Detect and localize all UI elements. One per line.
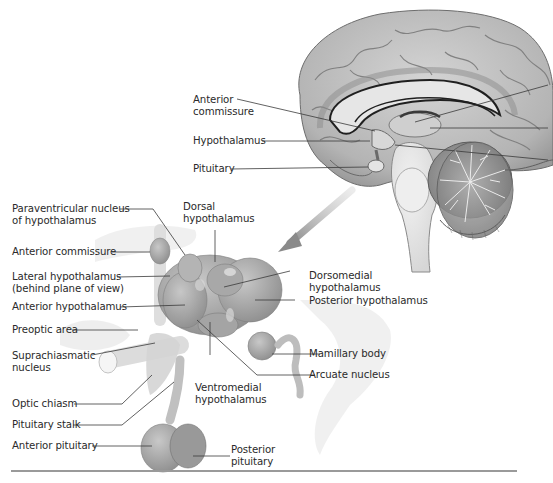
label-ventromedial-hypothalamus: Ventromedial hypothalamus [195,382,266,406]
cerebellum [428,142,513,240]
label-line: Lateral hypothalamus [12,271,124,283]
label-line: Dorsomedial [309,270,380,282]
label-lateral-hypothalamus: Lateral hypothalamus (behind plane of vi… [12,271,124,295]
label-pituitary-stalk: Pituitary stalk [12,419,81,431]
label-suprachiasmatic-nucleus: Suprachiasmatic nucleus [12,350,95,374]
hypothalamus-figure: Anterior commissure Hypothalamus Pituita… [0,0,553,483]
magnification-arrow [278,190,352,252]
label-optic-chiasm: Optic chiasm [12,398,77,410]
label-dorsomedial-hypothalamus: Dorsomedial hypothalamus [309,270,380,294]
label-line: Suprachiasmatic [12,350,95,362]
label-line: Dorsal [183,201,254,213]
label-line: commissure [193,106,254,118]
label-line: nucleus [12,362,95,374]
label-anterior-hypothalamus: Anterior hypothalamus [12,301,127,313]
label-line: Anterior [193,94,254,106]
label-dorsal-hypothalamus: Dorsal hypothalamus [183,201,254,225]
label-posterior-pituitary: Posterior pituitary [231,444,275,468]
label-line: Posterior [231,444,275,456]
label-line: pituitary [231,456,275,468]
mamillary-body-shape [248,332,276,360]
label-preoptic-area: Preoptic area [12,324,78,336]
label-mamillary-body: Mamillary body [309,348,386,360]
label-arcuate-nucleus: Arcuate nucleus [309,369,390,381]
label-anterior-commissure-brain: Anterior commissure [193,94,254,118]
label-line: hypothalamus [183,213,254,225]
label-line: Paraventricular nucleus [12,203,130,215]
label-hypothalamus-brain: Hypothalamus [193,135,266,147]
label-line: Ventromedial [195,382,266,394]
label-line: (behind plane of view) [12,283,124,295]
anterior-commissure-shape [150,238,170,264]
posterior-pituitary-shape [170,424,206,468]
label-pituitary-brain: Pituitary [193,163,235,175]
label-paraventricular-nucleus: Paraventricular nucleus of hypothalamus [12,203,130,227]
label-line: of hypothalamus [12,215,130,227]
bottom-divider [11,470,517,472]
label-line: hypothalamus [195,394,266,406]
label-line: hypothalamus [309,282,380,294]
label-anterior-pituitary: Anterior pituitary [12,440,98,452]
label-anterior-commissure: Anterior commissure [12,246,116,258]
label-posterior-hypothalamus: Posterior hypothalamus [309,295,428,307]
